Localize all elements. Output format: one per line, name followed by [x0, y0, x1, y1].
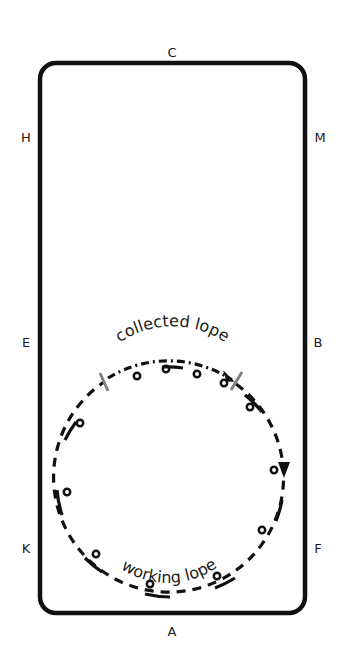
letter-c: C [167, 45, 176, 60]
letter-k: K [22, 541, 31, 556]
letter-f: F [314, 541, 321, 556]
arena-diagram: C A H E K M B F colle [0, 0, 342, 655]
collected-lope-label: collected lope [112, 311, 233, 345]
letter-h: H [21, 130, 31, 145]
arrow-working-icon [278, 462, 290, 478]
stride-markers [64, 366, 277, 587]
letter-e: E [22, 335, 30, 350]
working-lope-label: working lope [119, 554, 220, 587]
letter-b: B [314, 335, 323, 350]
letter-a: A [168, 624, 177, 639]
letter-m: M [314, 130, 325, 145]
stride-strokes [57, 367, 282, 597]
